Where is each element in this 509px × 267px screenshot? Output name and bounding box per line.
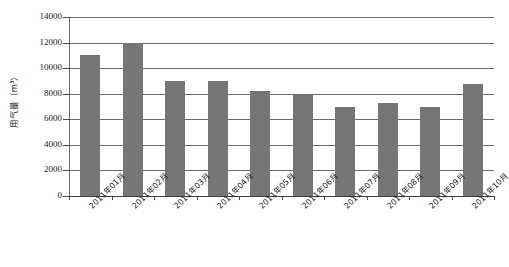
y-axis-tick-mark	[63, 68, 70, 69]
y-axis-tick-mark	[63, 170, 70, 171]
y-axis-tick-mark	[63, 17, 70, 18]
x-axis-tick-mark	[367, 196, 368, 200]
bar	[420, 107, 440, 197]
x-axis-tick-mark	[324, 196, 325, 200]
y-axis-tick-label: 10000	[18, 63, 62, 72]
x-axis-tick-mark	[197, 196, 198, 200]
bar	[293, 95, 313, 196]
y-axis-tick-label: 2000	[18, 165, 62, 174]
bar	[123, 43, 143, 196]
bar	[335, 107, 355, 197]
y-axis-tick-mark	[63, 119, 70, 120]
y-axis-tick-label: 12000	[18, 38, 62, 47]
y-axis-tick-label: 8000	[18, 89, 62, 98]
bar	[250, 91, 270, 196]
plot-area	[69, 17, 494, 196]
y-axis-tick-mark	[63, 43, 70, 44]
bar	[80, 55, 100, 196]
x-axis-tick-mark	[494, 196, 495, 200]
y-axis-tick-label: 4000	[18, 140, 62, 149]
x-axis-tick-mark	[409, 196, 410, 200]
y-axis-tick-mark	[63, 145, 70, 146]
y-axis-tick-labels: 02000400060008000100001200014000	[14, 0, 62, 200]
bar	[463, 84, 483, 197]
y-axis-tick-label: 6000	[18, 114, 62, 123]
x-axis-tick-mark	[69, 196, 70, 200]
y-axis-tick-label: 14000	[18, 12, 62, 21]
gridline	[69, 17, 494, 18]
y-axis-tick-label: 0	[18, 191, 62, 200]
x-axis-tick-mark	[112, 196, 113, 200]
x-axis-tick-mark	[452, 196, 453, 200]
x-axis-tick-mark	[282, 196, 283, 200]
bar	[378, 103, 398, 196]
x-axis-tick-mark	[239, 196, 240, 200]
x-axis-tick-mark	[154, 196, 155, 200]
y-axis-tick-mark	[63, 94, 70, 95]
